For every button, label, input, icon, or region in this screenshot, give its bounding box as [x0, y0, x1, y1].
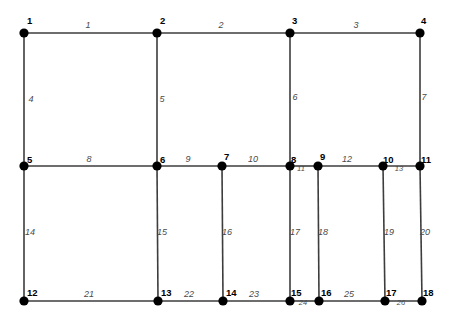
- member-label-22: 22: [183, 289, 194, 299]
- member-label-6: 6: [292, 92, 297, 102]
- member-label-21: 21: [83, 289, 94, 299]
- member-label-16: 16: [222, 227, 232, 237]
- node-label-18: 18: [423, 287, 434, 298]
- member-label-12: 12: [342, 154, 352, 164]
- truss-diagram: 1234567891011121314151617181920212223242…: [0, 0, 456, 324]
- member-label-4: 4: [28, 94, 33, 104]
- member-label-15: 15: [157, 227, 168, 237]
- node-label-16: 16: [321, 287, 332, 298]
- node-label-2: 2: [160, 15, 165, 26]
- truss-svg-canvas: 1234567891011121314151617181920212223242…: [0, 0, 456, 324]
- member-label-20: 20: [419, 227, 430, 237]
- member-label-18: 18: [318, 227, 328, 237]
- node-label-12: 12: [27, 287, 38, 298]
- node-label-11: 11: [421, 154, 432, 165]
- member-labels-layer: 1234567891011121314151617181920212223242…: [25, 20, 430, 307]
- joint-dot-2: [152, 28, 161, 37]
- member-label-1: 1: [85, 20, 90, 30]
- member-label-14: 14: [25, 227, 35, 237]
- joint-dot-1: [19, 28, 28, 37]
- member-label-10: 10: [248, 154, 258, 164]
- node-label-8: 8: [291, 154, 296, 165]
- node-label-15: 15: [291, 287, 302, 298]
- node-label-10: 10: [383, 154, 394, 165]
- node-label-6: 6: [160, 154, 165, 165]
- member-label-5: 5: [159, 94, 165, 104]
- node-label-1: 1: [27, 15, 33, 26]
- node-label-14: 14: [226, 287, 237, 298]
- member-label-17: 17: [290, 227, 301, 237]
- member-label-9: 9: [185, 154, 190, 164]
- node-label-17: 17: [386, 287, 397, 298]
- node-label-9: 9: [320, 151, 325, 162]
- joint-dot-9: [313, 161, 322, 170]
- node-label-13: 13: [161, 287, 172, 298]
- joint-dot-7: [217, 161, 226, 170]
- member-label-23: 23: [248, 289, 259, 299]
- member-label-11: 11: [297, 164, 305, 173]
- member-label-26: 26: [396, 298, 406, 307]
- member-label-2: 2: [217, 20, 223, 30]
- member-label-3: 3: [353, 20, 358, 30]
- member-label-8: 8: [86, 154, 91, 164]
- joint-dot-4: [415, 28, 424, 37]
- node-label-5: 5: [27, 154, 33, 165]
- node-label-3: 3: [292, 15, 297, 26]
- node-label-4: 4: [421, 15, 427, 26]
- member-label-25: 25: [343, 289, 355, 299]
- member-label-13: 13: [395, 164, 404, 173]
- member-label-7: 7: [421, 92, 427, 102]
- member-label-19: 19: [384, 227, 394, 237]
- joint-dot-3: [285, 28, 294, 37]
- member-label-24: 24: [298, 298, 307, 307]
- node-label-7: 7: [224, 151, 229, 162]
